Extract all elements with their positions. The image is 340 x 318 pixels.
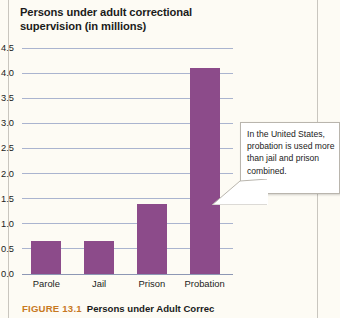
gridline — [22, 48, 233, 49]
y-axis-tick-label: 2.5 — [0, 143, 21, 153]
y-axis-tick-label: 1.5 — [0, 194, 21, 204]
x-axis-label-probation: Probation — [185, 278, 225, 289]
figure-caption-title: Persons under Adult Correc — [87, 303, 215, 314]
annotation-callout: In the United States, probation is used … — [240, 122, 340, 207]
bar-probation — [190, 68, 220, 274]
y-axis-tick-label: 0.5 — [0, 244, 21, 254]
y-axis-tick-label: 2.0 — [0, 169, 21, 179]
y-axis-tick-label: 3.0 — [0, 118, 21, 128]
y-axis-tick-label: 3.5 — [0, 93, 21, 103]
x-axis-label-jail: Jail — [92, 278, 106, 289]
y-axis-tick-label: 0.0 — [0, 269, 21, 279]
bar-parole — [31, 241, 61, 274]
y-axis-tick-label: 4.5 — [0, 43, 21, 53]
bar-prison — [137, 204, 167, 274]
x-axis-label-parole: Parole — [33, 278, 60, 289]
annotation-callout-pointer-icon — [212, 179, 268, 205]
x-axis-label-prison: Prison — [139, 278, 166, 289]
y-axis-tick-label: 1.0 — [0, 219, 21, 229]
plot-area: 0.00.51.01.52.02.53.03.54.04.5ParoleJail… — [22, 48, 233, 274]
chart-title: Persons under adult correctional supervi… — [20, 6, 235, 33]
figure-caption-number: FIGURE 13.1 — [22, 303, 82, 314]
bar-jail — [84, 241, 114, 274]
figure-caption: FIGURE 13.1Persons under Adult Correc — [22, 303, 312, 315]
y-axis-tick-label: 4.0 — [0, 68, 21, 78]
annotation-callout-text: In the United States, probation is used … — [247, 128, 337, 177]
